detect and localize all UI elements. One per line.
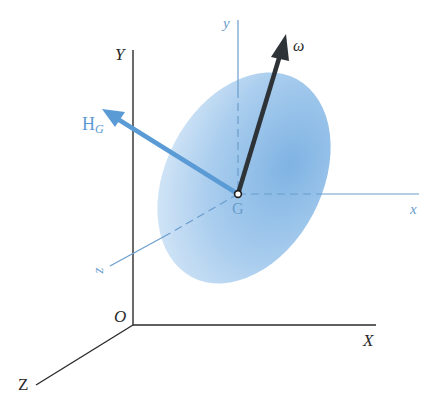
- origin-label: O: [114, 308, 126, 325]
- diagram-canvas: [0, 0, 430, 412]
- omega-label: ω: [293, 38, 304, 54]
- y-axis-label: y: [223, 16, 230, 31]
- G-label: G: [232, 201, 244, 217]
- HG-label-main: H: [82, 114, 95, 134]
- Y-axis-label: Y: [115, 46, 124, 63]
- x-axis-label: x: [410, 202, 417, 217]
- z-axis-solid: [110, 236, 165, 266]
- HG-label-sub: G: [95, 122, 104, 136]
- HG-arrow-head: [102, 109, 125, 127]
- z-axis-label: z: [91, 268, 106, 274]
- Z-axis-label: Z: [18, 376, 28, 393]
- center-of-mass-point: [235, 191, 242, 198]
- HG-label: HG: [82, 115, 104, 135]
- Z-axis-line: [36, 325, 133, 385]
- omega-arrow-head: [271, 34, 289, 61]
- diagram-stage: Y X Z O y x z G HG ω: [0, 0, 430, 412]
- X-axis-label: X: [363, 332, 373, 349]
